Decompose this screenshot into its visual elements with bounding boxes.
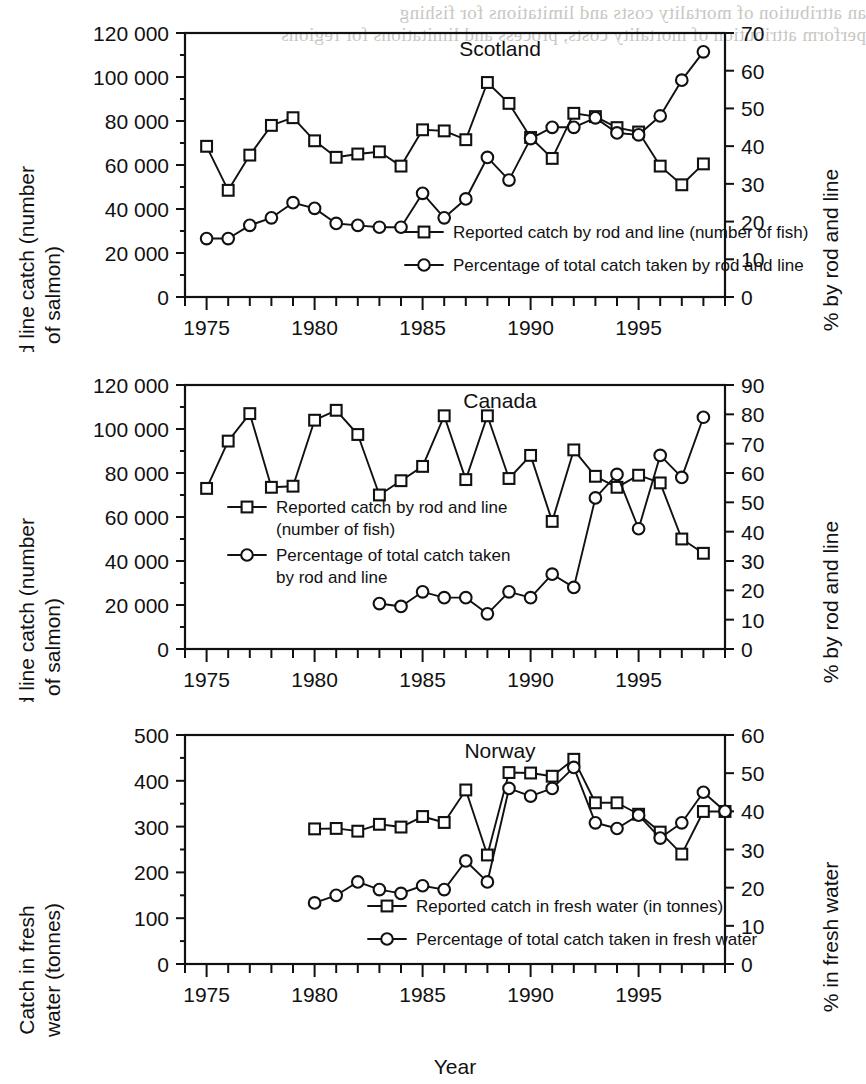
x-axis-tick-label: 1975 [183, 668, 230, 691]
data-point-marker [352, 149, 363, 160]
y-axis-title: Rod and line catch (numberof salmon) [15, 518, 64, 702]
plot-frame [185, 385, 725, 649]
legend-label: Percentage of total catch taken [276, 546, 510, 565]
data-point-marker [525, 133, 537, 145]
data-point-marker [309, 203, 321, 215]
y-axis-title-line: of salmon) [41, 598, 64, 696]
y2-axis-tick-label: 40 [741, 800, 764, 823]
y2-axis-tick-label: 40 [741, 135, 764, 158]
data-point-marker [395, 888, 407, 900]
y-axis-tick-label: 80 000 [105, 110, 169, 133]
legend-label: by rod and line [276, 568, 388, 587]
y-axis-tick-label: 100 000 [93, 418, 169, 441]
data-point-marker [612, 797, 623, 808]
y-axis-title: Rod and line catch (numberof salmon) [15, 166, 64, 352]
data-point-marker [547, 516, 558, 527]
x-axis-tick-label: 1995 [615, 668, 662, 691]
data-point-marker [676, 179, 687, 190]
y-axis-tick-label: 120 000 [93, 22, 169, 45]
data-point-marker [382, 901, 393, 912]
x-axis-tick-label: 1985 [399, 316, 446, 339]
data-point-marker [331, 152, 342, 163]
data-point-marker [352, 826, 363, 837]
y2-axis-tick-label: 90 [741, 374, 764, 397]
data-point-marker [676, 534, 687, 545]
data-point-marker [244, 220, 256, 232]
data-point-marker [266, 120, 277, 131]
data-point-marker [633, 809, 645, 821]
data-point-marker [352, 429, 363, 440]
data-point-marker [374, 884, 386, 896]
legend-label: Reported catch by rod and line [276, 498, 508, 517]
data-point-marker [374, 598, 386, 610]
y-axis-tick-label: 100 [134, 907, 169, 930]
data-point-marker [352, 220, 364, 232]
x-axis-tick-label: 1995 [615, 316, 662, 339]
data-point-marker [547, 771, 558, 782]
legend-label: Percentage of total catch taken by rod a… [453, 256, 804, 275]
data-point-marker [330, 890, 342, 902]
data-point-marker [417, 880, 429, 892]
panel-title: Canada [463, 389, 537, 412]
y2-axis-tick-label: 30 [741, 173, 764, 196]
data-point-marker [460, 592, 472, 604]
x-axis-tick-label: 1980 [291, 316, 338, 339]
data-point-marker [611, 469, 623, 481]
y2-axis-tick-label: 60 [741, 724, 764, 747]
y2-axis-tick-label: 50 [741, 491, 764, 514]
legend-label: Percentage of total catch taken in fresh… [416, 930, 757, 949]
x-axis-title: Year [434, 1055, 476, 1078]
data-point-marker [244, 408, 255, 419]
y-axis-tick-label: 300 [134, 816, 169, 839]
data-point-marker [503, 586, 515, 598]
y-axis-tick-label: 80 000 [105, 462, 169, 485]
y2-axis-title-line: % by rod and line [819, 169, 842, 331]
data-point-marker [460, 785, 471, 796]
data-point-marker [417, 586, 429, 598]
y2-axis-tick-label: 30 [741, 550, 764, 573]
data-point-marker [439, 410, 450, 421]
y-axis-tick-label: 200 [134, 861, 169, 884]
data-point-marker [419, 227, 430, 238]
data-point-marker [330, 218, 342, 230]
data-point-marker [331, 405, 342, 416]
data-point-marker [590, 471, 601, 482]
data-point-marker [654, 450, 666, 462]
y-axis-tick-label: 100 000 [93, 66, 169, 89]
y2-axis-title: % in fresh water [819, 862, 842, 1013]
data-point-marker [525, 450, 536, 461]
data-point-marker [698, 786, 710, 798]
y-axis-title-line: Rod and line catch (number [15, 166, 38, 352]
data-point-marker [698, 46, 710, 58]
data-point-marker [698, 159, 709, 170]
data-point-marker [654, 110, 666, 122]
data-point-marker [546, 121, 558, 133]
data-point-marker [309, 897, 321, 909]
y2-axis-title: % by rod and line [819, 169, 842, 331]
data-point-marker [460, 474, 471, 485]
data-point-marker [288, 481, 299, 492]
data-point-marker [266, 212, 278, 224]
data-point-marker [633, 470, 644, 481]
y2-axis-tick-label: 70 [741, 22, 764, 45]
y-axis-tick-label: 0 [157, 286, 169, 309]
x-axis-tick-label: 1990 [507, 983, 554, 1006]
data-point-marker [223, 436, 234, 447]
data-point-marker [568, 108, 579, 119]
chart-panel-norway: 0100200300400500010203040506019751980198… [0, 702, 866, 1084]
y2-axis-tick-label: 10 [741, 609, 764, 632]
x-axis-tick-label: 1980 [291, 983, 338, 1006]
data-point-marker [396, 161, 407, 172]
data-point-marker [439, 126, 450, 137]
series-line [207, 83, 704, 191]
y2-axis-tick-label: 50 [741, 97, 764, 120]
data-point-marker [546, 783, 558, 795]
data-point-marker [504, 473, 515, 484]
data-point-marker [438, 592, 450, 604]
y-axis-tick-label: 0 [157, 953, 169, 976]
y2-axis-tick-label: 50 [741, 762, 764, 785]
data-point-marker [438, 212, 450, 224]
data-point-marker [633, 129, 645, 141]
y-axis-tick-label: 120 000 [93, 374, 169, 397]
data-point-marker [242, 502, 253, 513]
